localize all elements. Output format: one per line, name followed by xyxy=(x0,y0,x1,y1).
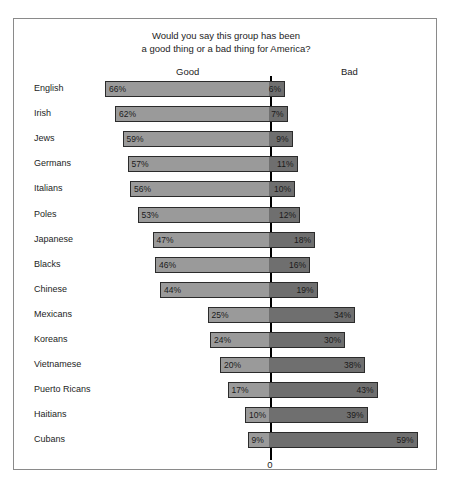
bar-segment-good xyxy=(106,82,271,96)
row-label-mexicans: Mexicans xyxy=(34,309,72,319)
value-label-bad: 6% xyxy=(269,82,281,96)
value-label-bad: 18% xyxy=(294,233,311,247)
chart-row: Vietnamese20%38% xyxy=(14,355,438,377)
chart-row: Haitians10%39% xyxy=(14,405,438,427)
bar-segment-bad xyxy=(269,433,417,447)
value-label-good: 9% xyxy=(252,433,264,447)
value-label-bad: 59% xyxy=(396,433,413,447)
chart-row: Chinese44%19% xyxy=(14,280,438,302)
bar-vietnamese[interactable]: 20%38% xyxy=(220,357,365,373)
bar-jews[interactable]: 59%9% xyxy=(123,131,293,147)
value-label-bad: 30% xyxy=(324,333,341,347)
chart-row: Italians56%10% xyxy=(14,179,438,201)
row-label-puerto-ricans: Puerto Ricans xyxy=(34,384,91,394)
bar-mexicans[interactable]: 25%34% xyxy=(208,307,356,323)
row-label-germans: Germans xyxy=(34,158,71,168)
row-label-japanese: Japanese xyxy=(34,234,73,244)
value-label-bad: 10% xyxy=(274,182,291,196)
value-label-good: 56% xyxy=(134,182,151,196)
chart-row: Poles53%12% xyxy=(14,205,438,227)
value-label-good: 53% xyxy=(142,208,159,222)
value-label-bad: 38% xyxy=(344,358,361,372)
value-label-good: 62% xyxy=(119,107,136,121)
bar-japanese[interactable]: 47%18% xyxy=(153,232,316,248)
value-label-bad: 39% xyxy=(346,408,363,422)
bar-irish[interactable]: 62%7% xyxy=(115,106,288,122)
value-label-bad: 16% xyxy=(289,258,306,272)
row-label-vietnamese: Vietnamese xyxy=(34,359,81,369)
row-label-koreans: Koreans xyxy=(34,334,68,344)
chart-row: Germans57%11% xyxy=(14,154,438,176)
chart-frame: Would you say this group has been a good… xyxy=(13,18,437,470)
bar-segment-good xyxy=(131,182,271,196)
bar-chinese[interactable]: 44%19% xyxy=(160,282,318,298)
row-label-jews: Jews xyxy=(34,133,55,143)
bar-germans[interactable]: 57%11% xyxy=(128,156,298,172)
value-label-good: 46% xyxy=(159,258,176,272)
value-label-good: 25% xyxy=(212,308,229,322)
value-label-bad: 9% xyxy=(276,132,288,146)
bar-italians[interactable]: 56%10% xyxy=(130,181,295,197)
row-label-italians: Italians xyxy=(34,183,63,193)
value-label-good: 20% xyxy=(224,358,241,372)
value-label-bad: 43% xyxy=(356,383,373,397)
zero-axis-label: 0 xyxy=(260,459,280,470)
row-label-cubans: Cubans xyxy=(34,434,65,444)
bar-segment-good xyxy=(124,132,272,146)
value-label-good: 59% xyxy=(127,132,144,146)
value-label-good: 57% xyxy=(132,157,149,171)
chart-row: Cubans9%59% xyxy=(14,430,438,452)
row-label-english: English xyxy=(34,83,64,93)
value-label-bad: 34% xyxy=(334,308,351,322)
chart-row: Japanese47%18% xyxy=(14,230,438,252)
value-label-bad: 7% xyxy=(271,107,283,121)
bar-poles[interactable]: 53%12% xyxy=(138,207,301,223)
bar-haitians[interactable]: 10%39% xyxy=(245,407,368,423)
bar-cubans[interactable]: 9%59% xyxy=(248,432,418,448)
row-label-blacks: Blacks xyxy=(34,259,61,269)
plot-area: 0 English66%6%Irish62%7%Jews59%9%Germans… xyxy=(14,19,438,471)
row-label-haitians: Haitians xyxy=(34,409,67,419)
bar-segment-good xyxy=(116,107,271,121)
chart-row: Puerto Ricans17%43% xyxy=(14,380,438,402)
bar-segment-good xyxy=(129,157,272,171)
chart-row: English66%6% xyxy=(14,79,438,101)
chart-row: Koreans24%30% xyxy=(14,330,438,352)
chart-row: Irish62%7% xyxy=(14,104,438,126)
bar-koreans[interactable]: 24%30% xyxy=(210,332,345,348)
value-label-good: 10% xyxy=(249,408,266,422)
value-label-bad: 19% xyxy=(296,283,313,297)
value-label-good: 47% xyxy=(157,233,174,247)
bar-blacks[interactable]: 46%16% xyxy=(155,257,310,273)
row-label-poles: Poles xyxy=(34,209,57,219)
bar-english[interactable]: 66%6% xyxy=(105,81,285,97)
value-label-good: 66% xyxy=(109,82,126,96)
bar-puerto-ricans[interactable]: 17%43% xyxy=(228,382,378,398)
chart-row: Jews59%9% xyxy=(14,129,438,151)
value-label-good: 24% xyxy=(214,333,231,347)
value-label-good: 17% xyxy=(232,383,249,397)
row-label-irish: Irish xyxy=(34,108,51,118)
value-label-good: 44% xyxy=(164,283,181,297)
value-label-bad: 12% xyxy=(279,208,296,222)
chart-row: Mexicans25%34% xyxy=(14,305,438,327)
value-label-bad: 11% xyxy=(277,157,293,171)
row-label-chinese: Chinese xyxy=(34,284,67,294)
chart-row: Blacks46%16% xyxy=(14,255,438,277)
